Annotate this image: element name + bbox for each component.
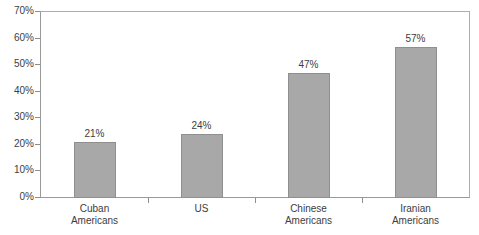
x-axis-labels: Cuban AmericansUSChinese AmericansIrania… xyxy=(41,203,469,235)
y-tick-mark xyxy=(35,170,40,171)
x-category-label: US xyxy=(148,203,255,215)
x-group-divider xyxy=(148,198,149,203)
y-tick-mark xyxy=(35,11,40,12)
bar[interactable] xyxy=(181,134,223,198)
y-tick-label: 0% xyxy=(20,192,34,202)
x-group-divider xyxy=(362,198,363,203)
x-group-divider xyxy=(255,198,256,203)
y-tick-label: 10% xyxy=(14,165,34,175)
y-tick-mark xyxy=(35,38,40,39)
y-tick-mark xyxy=(35,197,40,198)
x-category-label: Iranian Americans xyxy=(362,203,469,227)
plot-area: 21%24%47%57% xyxy=(41,12,469,198)
y-axis: 0%10%20%30%40%50%60%70% xyxy=(0,11,34,198)
bar-slot: 57% xyxy=(362,12,469,198)
bar-chart: 0%10%20%30%40%50%60%70% 21%24%47%57% Cub… xyxy=(0,0,479,235)
y-tick-mark xyxy=(35,144,40,145)
y-tick-label: 30% xyxy=(14,112,34,122)
bar[interactable] xyxy=(395,47,437,198)
y-tick-label: 60% xyxy=(14,33,34,43)
bar-slot: 21% xyxy=(41,12,148,198)
bar-value-label: 21% xyxy=(84,128,104,139)
y-tick-label: 70% xyxy=(14,6,34,16)
y-tick-label: 40% xyxy=(14,86,34,96)
bar-value-label: 47% xyxy=(298,59,318,70)
bar-value-label: 24% xyxy=(191,120,211,131)
bar[interactable] xyxy=(288,73,330,198)
y-tick-mark xyxy=(35,91,40,92)
chart-title-cropped xyxy=(0,0,479,9)
y-tick-label: 50% xyxy=(14,59,34,69)
y-tick-label: 20% xyxy=(14,139,34,149)
bar[interactable] xyxy=(74,142,116,198)
x-category-label: Cuban Americans xyxy=(41,203,148,227)
y-tick-mark xyxy=(35,64,40,65)
bar-slot: 47% xyxy=(255,12,362,198)
bar-slot: 24% xyxy=(148,12,255,198)
y-tick-mark xyxy=(35,117,40,118)
x-category-label: Chinese Americans xyxy=(255,203,362,227)
bar-value-label: 57% xyxy=(405,33,425,44)
